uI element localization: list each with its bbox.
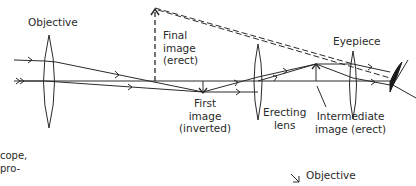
label-intermediate-image-line1: Intermediate — [315, 110, 386, 123]
label-first-image-line3: (inverted) — [179, 122, 231, 135]
label-first-image-line2: image — [179, 110, 231, 123]
eye-outline — [393, 60, 416, 98]
label-erecting-lens-line2: lens — [263, 119, 306, 132]
ray-erecting-lower — [258, 64, 316, 81]
erecting-lens — [254, 44, 262, 120]
objective-pointer-arrow-icon — [291, 174, 299, 182]
label-intermediate-image-line2: image (erect) — [315, 123, 386, 136]
label-first-image-line1: First — [179, 97, 231, 110]
caption-fragment: cope, pro- — [0, 150, 27, 175]
label-final-image-line1: Final — [163, 29, 198, 42]
ray-to-erecting-upper — [203, 77, 258, 92]
ray-objective-lower — [45, 81, 203, 92]
label-final-image-line2: image — [163, 42, 198, 55]
label-first-image: First image (inverted) — [179, 97, 231, 135]
eye-lens-icon — [390, 62, 402, 92]
label-erecting-lens-line1: Erecting — [263, 106, 306, 119]
label-intermediate-image: Intermediate image (erect) — [315, 110, 386, 135]
ray-objective-upper — [56, 62, 203, 92]
label-erecting-lens: Erecting lens — [263, 106, 306, 131]
intermediate-image-pointer — [317, 86, 326, 107]
caption-fragment-line2: pro- — [0, 163, 27, 176]
label-objective: Objective — [28, 16, 78, 29]
label-final-image: Final image (erect) — [163, 29, 198, 67]
eyepiece-lens — [350, 51, 357, 119]
label-bottom-objective: Objective — [306, 169, 356, 182]
caption-fragment-line1: cope, — [0, 150, 27, 163]
ray-incoming-upper — [14, 60, 45, 61]
label-eyepiece: Eyepiece — [333, 35, 381, 48]
label-final-image-line3: (erect) — [163, 54, 198, 67]
